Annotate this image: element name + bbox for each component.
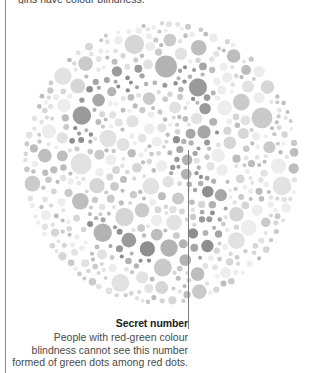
- figure-caption: Secret number People with red-green colo…: [8, 317, 188, 369]
- caption-line: blindness cannot see this number: [8, 344, 188, 357]
- caption-line: People with red-green colour: [8, 331, 188, 344]
- page-left-rule: [5, 0, 6, 373]
- annotation-leader-line: [188, 150, 189, 329]
- ishihara-plate-svg: [22, 19, 300, 307]
- caption-line: formed of green dots among red dots.: [8, 356, 188, 369]
- clipped-body-text: girls have colour blindness.: [18, 0, 248, 4]
- dot-layer: [23, 21, 299, 304]
- ishihara-plate: [22, 19, 300, 307]
- caption-body: People with red-green colour blindness c…: [8, 331, 188, 369]
- caption-title: Secret number: [8, 317, 188, 330]
